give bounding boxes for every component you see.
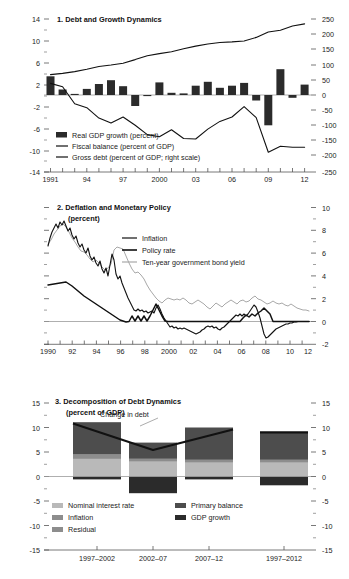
- panel-3-legend-swatch-3: [175, 503, 186, 508]
- svg-text:2002–07: 2002–07: [139, 554, 167, 563]
- svg-text:-2: -2: [322, 340, 328, 349]
- svg-text:97: 97: [119, 175, 127, 184]
- panel-2-legend-label-2: Ten-year government bond yield: [142, 258, 245, 267]
- svg-text:0: 0: [322, 473, 326, 482]
- svg-text:06: 06: [238, 347, 246, 356]
- svg-text:08: 08: [262, 347, 270, 356]
- panel-1-x-ticks: [51, 168, 305, 172]
- svg-text:8: 8: [322, 226, 326, 235]
- seg-inflation: [260, 460, 308, 463]
- panel-3-decomposition-of-debt-dynamics: 3. Decomposition of Debt Dynamics (perce…: [0, 385, 349, 579]
- panel-3-annotation-leader: [140, 418, 158, 426]
- panel-3-legend-label-2: Residual: [68, 525, 96, 534]
- panel-1-x-labels: 1991 94 97 2000 03 06 09 12: [43, 175, 309, 184]
- svg-text:1991: 1991: [43, 175, 59, 184]
- panel-1-legend-label-2: Gross debt (percent of GDP; right scale): [72, 153, 200, 162]
- svg-text:2: 2: [322, 295, 326, 304]
- svg-text:-10: -10: [30, 522, 40, 531]
- svg-text:94: 94: [92, 347, 100, 356]
- svg-text:-10: -10: [322, 522, 332, 531]
- svg-text:1990: 1990: [40, 347, 56, 356]
- svg-text:-5: -5: [34, 497, 40, 506]
- panel-2-inflation-line: [48, 221, 309, 338]
- svg-text:10: 10: [322, 424, 330, 433]
- svg-text:0: 0: [36, 473, 40, 482]
- svg-text:-6: -6: [34, 125, 40, 134]
- seg-nominal-interest-rate: [185, 463, 233, 477]
- panel-3-x-ticks: [97, 546, 284, 550]
- panel-3-legend-label-4: GDP growth: [191, 513, 230, 522]
- svg-text:10: 10: [32, 424, 40, 433]
- panel-3-title: 3. Decomposition of Debt Dynamics: [55, 397, 181, 406]
- panel-2-legend-label-0: Inflation: [142, 234, 167, 243]
- panel-2-legend: Inflation Policy rate Ten-year governmen…: [122, 234, 245, 267]
- seg-primary-balance: [260, 432, 308, 459]
- panel-1-gross-debt-line: [51, 24, 305, 75]
- seg-gdp-growth: [260, 477, 308, 486]
- svg-text:15: 15: [32, 399, 40, 408]
- panel-2-x-labels: 1990 92 94 96 98 2000 02 04 06 08 10 12: [40, 347, 312, 356]
- panel-1-legend-label-1: Fiscal balance (percent of GDP): [72, 142, 174, 151]
- panel-1-legend-label-0: Real GDP growth (percent): [72, 131, 159, 140]
- panel-3-legend-swatch-2: [52, 527, 63, 532]
- svg-text:02: 02: [189, 347, 197, 356]
- svg-text:12: 12: [304, 347, 312, 356]
- svg-text:92: 92: [68, 347, 76, 356]
- panel-2-x-ticks: [48, 341, 302, 345]
- panel-3-legend-swatch-0: [52, 503, 63, 508]
- svg-text:2000: 2000: [151, 175, 167, 184]
- panel-2-subtitle: (percent): [68, 214, 100, 223]
- panel-3-legend-label-0: Nominal interest rate: [68, 501, 134, 510]
- svg-text:2: 2: [36, 81, 40, 90]
- svg-text:10: 10: [32, 37, 40, 46]
- svg-text:-150: -150: [322, 136, 336, 145]
- svg-text:96: 96: [117, 347, 125, 356]
- panel-3-legend: Nominal interest rate Inflation Residual…: [52, 501, 243, 534]
- svg-text:-14: -14: [30, 168, 40, 177]
- seg-gdp-growth: [73, 477, 121, 480]
- panel-2-title: 2. Deflation and Monetary Policy: [57, 203, 172, 212]
- svg-text:-15: -15: [30, 546, 40, 555]
- panel-1-title: 1. Debt and Growth Dynamics: [57, 15, 162, 24]
- seg-nominal-interest-rate: [73, 459, 121, 477]
- svg-text:09: 09: [264, 175, 272, 184]
- svg-text:12: 12: [301, 175, 309, 184]
- seg-inflation: [73, 455, 121, 459]
- svg-text:-100: -100: [322, 121, 336, 130]
- panel-3-x-labels: 1997–2002 2002–07 2007–12 1997–2012: [79, 554, 302, 563]
- svg-text:03: 03: [192, 175, 200, 184]
- panel-3-right-axis: 15 10 5 0 -5 -10 -15: [311, 399, 332, 555]
- panel-3-left-axis: 15 10 5 0 -5 -10 -15: [30, 399, 49, 555]
- svg-text:06: 06: [228, 175, 236, 184]
- seg-nominal-interest-rate: [260, 463, 308, 477]
- svg-text:50: 50: [322, 76, 330, 85]
- svg-text:-5: -5: [322, 497, 328, 506]
- seg-gdp-growth: [129, 477, 177, 494]
- svg-text:15: 15: [322, 399, 330, 408]
- panel-2-legend-label-1: Policy rate: [142, 246, 176, 255]
- svg-text:04: 04: [213, 347, 221, 356]
- svg-text:-15: -15: [322, 546, 332, 555]
- panel-1-gdp-growth-bars: [47, 69, 309, 125]
- svg-text:200: 200: [322, 30, 334, 39]
- seg-nominal-interest-rate: [129, 462, 177, 477]
- figure-container: 1. Debt and Growth Dynamics 14 10 6 2 -2…: [0, 0, 349, 579]
- svg-text:0: 0: [322, 318, 326, 327]
- svg-text:94: 94: [83, 175, 91, 184]
- panel-1-left-axis: 14 10 6 2 -2 -6 -10 -14: [30, 15, 49, 177]
- svg-text:150: 150: [322, 45, 334, 54]
- panel-2-deflation-and-monetary-policy: 2. Deflation and Monetary Policy (percen…: [0, 190, 349, 385]
- panel-3-legend-label-3: Primary balance: [191, 501, 243, 510]
- svg-text:5: 5: [322, 448, 326, 457]
- svg-text:10: 10: [322, 204, 330, 213]
- svg-text:5: 5: [36, 448, 40, 457]
- panel-3-legend-label-1: Inflation: [68, 513, 93, 522]
- svg-text:-200: -200: [322, 151, 336, 160]
- panel-1-legend-swatch-bar: [56, 132, 67, 138]
- svg-text:2000: 2000: [161, 347, 177, 356]
- svg-text:14: 14: [32, 15, 40, 24]
- svg-text:2007–12: 2007–12: [195, 554, 223, 563]
- svg-text:-10: -10: [30, 147, 40, 156]
- svg-text:6: 6: [36, 59, 40, 68]
- panel-3-legend-swatch-1: [52, 515, 63, 520]
